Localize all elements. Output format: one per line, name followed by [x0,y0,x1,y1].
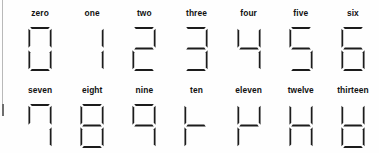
segment-top [291,27,311,29]
digit-cell-nine: nine [118,79,170,153]
digit-label: two [137,8,152,18]
segment-top-right [311,106,313,125]
seven-segment-glyph [181,26,211,72]
segment-top-right [50,106,52,125]
seven-segment-glyph [338,26,368,72]
digit-cell-seven: seven [14,79,66,153]
segment-top-left [237,29,239,48]
segment-top [82,27,102,29]
segment-top [135,27,155,29]
segment-bottom [82,146,102,148]
digit-glyph-four [234,26,264,72]
digit-label: six [347,8,359,18]
segment-top-right [102,106,104,125]
segment-bottom [291,69,311,71]
segment-bottom [291,146,311,148]
segment-middle [343,125,363,127]
segment-bottom-right [258,127,260,146]
segment-top [135,104,155,106]
segment-bottom-left [341,50,343,69]
segment-bottom-left [185,50,187,69]
segment-top-left [185,106,187,125]
segment-bottom [343,69,363,71]
segment-middle [291,125,311,127]
segment-top-right [50,29,52,48]
digit-cell-four: four [223,2,275,78]
segment-middle [239,125,259,127]
segment-top-left [185,29,187,48]
segment-top-right [206,29,208,48]
seven-segment-glyph [25,26,55,72]
digit-glyph-zero [25,26,55,72]
digit-glyph-ten [181,103,211,149]
digit-label: one [85,8,100,18]
seven-segment-glyph [77,103,107,149]
segment-top-left [341,106,343,125]
segment-bottom-left [289,50,291,69]
segment-bottom-right [206,50,208,69]
segment-top [239,104,259,106]
segment-bottom-right [102,127,104,146]
segment-middle [30,125,50,127]
digit-label: nine [136,85,154,95]
segment-top-right [258,29,260,48]
segment-bottom [135,69,155,71]
segment-bottom-right [206,127,208,146]
segment-bottom-left [133,127,135,146]
digit-label: three [186,8,207,18]
seven-segment-glyph [25,103,55,149]
digit-cell-twelve: twelve [275,79,327,153]
digit-cell-two: two [118,2,170,78]
digit-glyph-eight [77,103,107,149]
seven-segment-glyph [129,26,159,72]
segment-bottom-right [311,50,313,69]
segment-bottom-right [258,50,260,69]
segment-top-left [133,29,135,48]
segment-bottom-right [154,50,156,69]
segment-top [343,27,363,29]
segment-middle [135,125,155,127]
digit-cell-thirteen: thirteen [327,79,379,153]
seven-segment-glyph [286,103,316,149]
figure-sheet: zeroonetwothreefourfivesix seveneightnin… [0,0,379,153]
segment-bottom-right [50,127,52,146]
segment-bottom-left [341,127,343,146]
digit-grid: zeroonetwothreefourfivesix seveneightnin… [14,0,379,153]
segment-middle [343,48,363,50]
segment-top-right [363,29,365,48]
seven-segment-glyph [338,103,368,149]
digit-label: twelve [288,85,314,95]
seven-segment-glyph [286,26,316,72]
segment-top-left [81,106,83,125]
segment-top-right [154,106,156,125]
segment-bottom-left [289,127,291,146]
segment-top [187,27,207,29]
segment-top-left [289,106,291,125]
digit-cell-five: five [275,2,327,78]
segment-middle [82,48,102,50]
page-margin-tick [2,104,4,116]
segment-bottom-right [363,127,365,146]
digit-label: eight [82,85,103,95]
segment-top-right [311,29,313,48]
digit-glyph-three [181,26,211,72]
digit-glyph-two [129,26,159,72]
segment-bottom [30,69,50,71]
segment-top [30,27,50,29]
segment-middle [82,125,102,127]
digit-label: zero [31,8,49,18]
segment-bottom [30,146,50,148]
digit-row: zeroonetwothreefourfivesix [14,2,379,78]
segment-bottom-right [363,50,365,69]
digit-glyph-six [338,26,368,72]
digit-cell-eleven: eleven [223,79,275,153]
segment-bottom-left [29,127,31,146]
segment-bottom-right [154,127,156,146]
segment-bottom [187,146,207,148]
segment-bottom [135,146,155,148]
segment-bottom [239,69,259,71]
seven-segment-glyph [181,103,211,149]
digit-cell-three: three [170,2,222,78]
segment-top-left [81,29,83,48]
digit-cell-ten: ten [170,79,222,153]
